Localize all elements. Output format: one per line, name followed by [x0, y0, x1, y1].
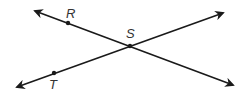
point-r-label: R — [66, 6, 75, 21]
diagram-canvas: R S T — [0, 0, 247, 94]
line-ts-arrow — [17, 13, 223, 87]
diagram-svg: R S T — [0, 0, 247, 94]
point-r-dot — [66, 21, 70, 25]
line-rs-arrow — [35, 11, 233, 85]
point-t-label: T — [49, 77, 58, 92]
point-s-label: S — [126, 26, 135, 41]
point-s-dot — [128, 44, 132, 48]
point-t-dot — [52, 71, 56, 75]
